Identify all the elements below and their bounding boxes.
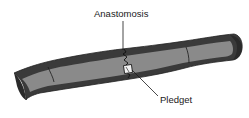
anastomosis-label: Anastomosis (94, 9, 148, 19)
pledget-icon (123, 64, 132, 73)
pledget-label: Pledget (160, 95, 192, 105)
